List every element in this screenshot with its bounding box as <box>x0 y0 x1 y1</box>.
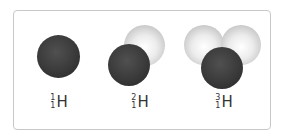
element-symbol: H <box>221 94 232 110</box>
isotope-label-protium: 1 1 H <box>50 92 67 112</box>
element-symbol: H <box>137 94 148 110</box>
proton-sphere <box>201 47 243 89</box>
atomic-number: 1 <box>50 102 55 110</box>
atomic-number: 1 <box>215 102 220 110</box>
atomic-number: 1 <box>131 102 136 110</box>
isotope-label-tritium: 3 1 H <box>215 92 232 112</box>
isotope-label-deuterium: 2 1 H <box>131 92 148 112</box>
proton-sphere <box>37 35 80 78</box>
proton-sphere <box>108 44 150 86</box>
element-symbol: H <box>56 94 67 110</box>
